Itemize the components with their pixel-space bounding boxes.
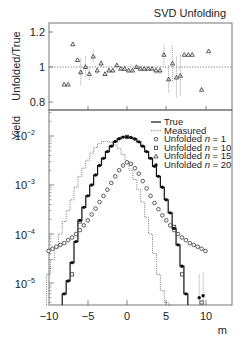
xtick--5: −5 (82, 310, 95, 322)
ratio-ylabel: Unfolded/True (10, 31, 22, 100)
chart-svg: SVD Unfolding 1.2 1 0.8 Unfolded/True 10… (0, 0, 243, 343)
xtick-10: 10 (200, 310, 212, 322)
xtick-5: 5 (163, 310, 169, 322)
yield-ytick-1e-3: 10−3 (15, 178, 35, 191)
yield-ytick-1e-4: 10−4 (15, 228, 35, 241)
ratio-ytick-1: 1 (39, 61, 45, 73)
xlabel: m (218, 324, 227, 336)
legend-entry: Unfolded n = 20 (164, 159, 231, 170)
yield-ylabel: Yield (10, 116, 22, 140)
yield-ytick-1e-5: 10−5 (15, 277, 35, 290)
ratio-ytick-0.8: 0.8 (30, 96, 45, 108)
chart-title: SVD Unfolding (154, 7, 226, 19)
ratio-y-axis: 1.2 1 0.8 Unfolded/True (10, 26, 53, 108)
legend: TrueMeasuredUnfolded n = 1Unfolded n = 1… (151, 116, 231, 170)
xtick--10: −10 (40, 310, 59, 322)
ratio-ytick-1.2: 1.2 (30, 26, 45, 38)
ratio-series (62, 42, 211, 98)
xtick-0: 0 (124, 310, 130, 322)
ratio-x-ticks (88, 106, 206, 110)
